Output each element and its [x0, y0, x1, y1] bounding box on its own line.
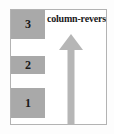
flex-item-label: 2 [25, 58, 31, 73]
flex-item-3: 3 [11, 10, 45, 39]
flex-item-label: 1 [25, 96, 31, 111]
flex-item-2: 2 [11, 56, 45, 74]
diagram-canvas: 3 2 1 column-reverse [0, 0, 114, 134]
direction-label: column-reverse [47, 13, 107, 24]
flex-container: 3 2 1 column-reverse [10, 9, 107, 125]
flex-item-1: 1 [11, 88, 45, 118]
flex-item-label: 3 [25, 17, 31, 32]
